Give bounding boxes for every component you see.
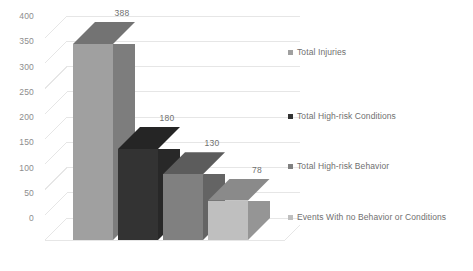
legend-item[interactable]: Total High-risk Conditions bbox=[288, 111, 396, 121]
bar[interactable] bbox=[73, 44, 113, 240]
bar-front-face bbox=[118, 149, 158, 240]
legend-color-swatch-icon bbox=[288, 114, 293, 119]
bar-side-face bbox=[248, 201, 270, 240]
legend-color-swatch-icon bbox=[288, 50, 293, 55]
chart-legend: Total InjuriesTotal High-risk Conditions… bbox=[288, 0, 473, 271]
bar-front-face bbox=[208, 201, 248, 240]
bar-value-label: 78 bbox=[242, 165, 272, 175]
bar-value-label: 130 bbox=[197, 138, 227, 148]
bars-layer: 38818013078 bbox=[0, 0, 300, 271]
bar-value-label: 388 bbox=[107, 8, 137, 18]
legend-item-label: Total Injuries bbox=[297, 47, 346, 57]
bar[interactable] bbox=[118, 149, 158, 240]
legend-item[interactable]: Total Injuries bbox=[288, 47, 346, 57]
bar[interactable] bbox=[208, 201, 248, 240]
legend-item-label: Total High-risk Conditions bbox=[297, 111, 396, 121]
legend-item-label: Total High-risk Behavior bbox=[297, 161, 389, 171]
legend-item[interactable]: Events With no Behavior or Conditions bbox=[288, 212, 446, 222]
legend-item-label: Events With no Behavior or Conditions bbox=[297, 212, 446, 222]
legend-color-swatch-icon bbox=[288, 215, 293, 220]
bar-value-label: 180 bbox=[152, 113, 182, 123]
bar[interactable] bbox=[163, 174, 203, 240]
bar-top-face bbox=[73, 22, 135, 44]
legend-color-swatch-icon bbox=[288, 164, 293, 169]
bar-front-face bbox=[73, 44, 113, 240]
bar-chart: 400350300250200150100500 38818013078 Tot… bbox=[0, 0, 473, 271]
bar-front-face bbox=[163, 174, 203, 240]
legend-item[interactable]: Total High-risk Behavior bbox=[288, 161, 389, 171]
